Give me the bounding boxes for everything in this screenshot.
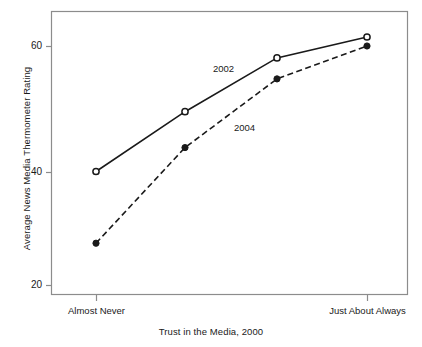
y-axis-ticks bbox=[46, 47, 52, 286]
chart-figure: 60 40 20 Almost Never Just About Always … bbox=[0, 0, 422, 347]
x-tick-label-just-about-always: Just About Always bbox=[305, 305, 422, 316]
plot-frame bbox=[52, 12, 408, 295]
line-chart-plot bbox=[0, 0, 422, 347]
x-axis-ticks bbox=[97, 295, 368, 302]
x-tick-label-almost-never: Almost Never bbox=[34, 305, 159, 316]
series-label-2002: 2002 bbox=[213, 63, 234, 74]
series-label-2004: 2004 bbox=[234, 122, 255, 133]
y-axis-title: Average News Media Thermometer Rating bbox=[21, 29, 32, 289]
x-axis-title: Trust in the Media, 2000 bbox=[0, 326, 422, 337]
